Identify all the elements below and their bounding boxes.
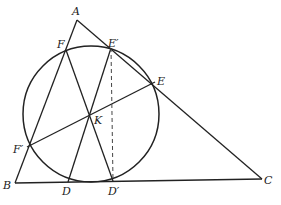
segment-Fprime-E	[27, 82, 155, 147]
label-E: E	[156, 75, 165, 88]
label-C: C	[264, 174, 273, 187]
label-B: B	[2, 179, 11, 192]
geometry-diagram: A F E′ E K F′ B D D′ C	[0, 0, 281, 205]
side-BC	[15, 179, 262, 183]
label-E-prime: E′	[107, 37, 119, 50]
side-AC	[77, 20, 262, 179]
label-K: K	[93, 114, 103, 127]
label-D: D	[61, 185, 71, 198]
label-D-prime: D′	[107, 185, 120, 198]
label-F-prime: F′	[12, 143, 24, 156]
label-F: F	[56, 38, 65, 51]
segment-Eprime-Dprime-dashed	[111, 48, 113, 181]
label-A: A	[71, 5, 80, 18]
